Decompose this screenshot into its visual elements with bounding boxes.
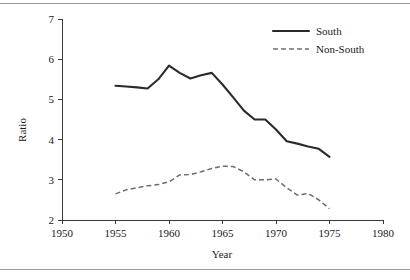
y-tick-labels-group: 234567 [49,13,55,226]
y-tick-label: 2 [49,214,55,226]
series-line-non-south [116,166,330,209]
series-line-south [116,66,330,157]
x-tick-label: 1950 [51,227,74,239]
line-chart: 1950195519601965197019751980 234567 Sout… [0,0,410,280]
legend-label-south: South [316,25,342,37]
x-tick-label: 1960 [158,227,181,239]
y-tick-label: 4 [49,134,55,146]
y-tick-label: 5 [49,93,55,105]
x-tick-label: 1955 [105,227,128,239]
x-tick-label: 1965 [212,227,235,239]
chart-legend: SouthNon-South [273,25,365,55]
x-tick-label: 1975 [319,227,342,239]
x-tick-label: 1980 [372,227,395,239]
x-tick-labels-group: 1950195519601965197019751980 [51,227,395,239]
data-series-group [116,66,330,209]
legend-label-non-south: Non-South [316,43,365,55]
x-tick-label: 1970 [265,227,288,239]
y-tick-label: 7 [49,13,55,25]
y-tick-label: 3 [49,174,55,186]
x-axis-title: Year [212,248,233,260]
y-axis-title: Ratio [16,118,28,142]
figure-container: 1950195519601965197019751980 234567 Sout… [0,0,410,280]
y-tick-label: 6 [49,53,55,65]
